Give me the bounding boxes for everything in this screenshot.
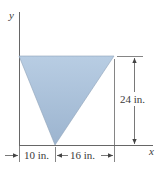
left-width-label: 10 in. [24, 149, 49, 161]
height-dimension-label: 24 in. [120, 93, 145, 105]
x-axis-label: x [148, 145, 154, 157]
y-axis-label: y [8, 9, 14, 21]
right-width-label: 16 in. [70, 149, 95, 161]
triangle-diagram: 24 in. 10 in. 16 in. y x [0, 0, 157, 172]
triangular-area [19, 56, 114, 145]
